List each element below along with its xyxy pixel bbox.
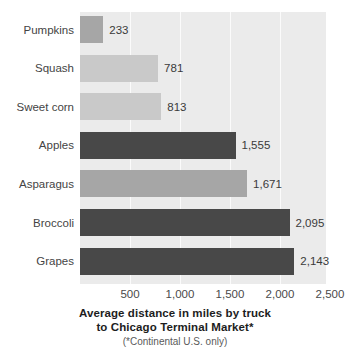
value-label-broccoli: 2,095 <box>296 216 325 230</box>
bar-apples[interactable] <box>80 132 236 159</box>
bar-squash[interactable] <box>80 55 158 82</box>
x-tick-label-2500: 2,500 <box>300 288 350 300</box>
axis-caption-footnote: (*Continental U.S. only) <box>0 335 350 349</box>
category-label-text: Asparagus <box>19 177 74 191</box>
plot-area <box>80 12 326 284</box>
value-label-apples: 1,555 <box>242 138 271 152</box>
axis-caption-line-2: to Chicago Terminal Market* <box>0 320 350 334</box>
category-label-text: Sweet corn <box>16 100 74 114</box>
category-label-text: Grapes <box>36 254 74 268</box>
value-label-squash: 781 <box>164 61 183 75</box>
axis-caption-line-1: Average distance in miles by truck <box>0 306 350 320</box>
axis-caption: Average distance in miles by truckto Chi… <box>0 306 350 349</box>
bar-broccoli[interactable] <box>80 209 290 236</box>
value-label-grapes: 2,143 <box>300 254 329 268</box>
gridline-2000 <box>280 12 281 284</box>
value-label-pumpkins: 233 <box>109 23 128 37</box>
category-label-text: Pumpkins <box>24 23 75 37</box>
bar-pumpkins[interactable] <box>80 16 103 43</box>
value-label-sweet-corn: 813 <box>167 100 186 114</box>
bar-grapes[interactable] <box>80 248 294 275</box>
bar-sweet-corn[interactable] <box>80 93 161 120</box>
value-label-asparagus: 1,671 <box>253 177 282 191</box>
category-label-text: Broccoli <box>33 216 74 230</box>
category-label-text: Squash <box>35 61 74 75</box>
bar-asparagus[interactable] <box>80 170 247 197</box>
category-label-text: Apples <box>39 138 74 152</box>
bar-chart: Pumpkins233Squash781Sweet corn813Apples1… <box>0 0 350 354</box>
